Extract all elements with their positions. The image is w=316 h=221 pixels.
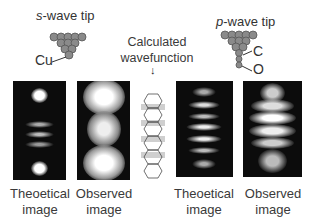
caption-p-theoretical: Theoeticalimage — [168, 186, 240, 218]
down-arrow-icon: ↓ — [150, 64, 156, 76]
caption-s-theoretical: Theoeticalimage — [4, 186, 76, 218]
p-theoretical-image — [176, 81, 233, 177]
c-atom-label: C — [253, 43, 263, 59]
molecule-wavefunction — [139, 92, 167, 184]
s-theoretical-image — [13, 81, 66, 180]
cu-atom-label: Cu — [35, 52, 53, 68]
caption-p-observed: Observedimage — [237, 186, 309, 218]
s-wave-tip-title: s-wave tip — [36, 8, 95, 23]
o-atom-label: O — [253, 61, 264, 77]
p-observed-image — [243, 81, 302, 177]
caption-s-observed: Observedimage — [68, 186, 140, 218]
p-wave-tip-title: p-wave tip — [216, 14, 275, 29]
s-observed-image — [77, 81, 130, 180]
calculated-wavefunction-label: Calculatedwavefunction — [117, 34, 197, 66]
